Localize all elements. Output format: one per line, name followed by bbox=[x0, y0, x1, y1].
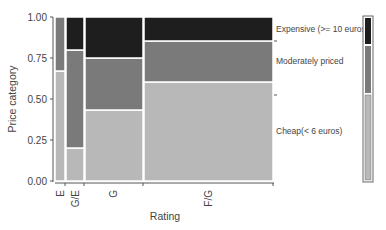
tile-fg-expensive bbox=[144, 17, 273, 41]
tile-ge-expensive bbox=[66, 17, 84, 50]
y-axis-label: Price category bbox=[6, 65, 18, 133]
tile-ge-moderate bbox=[66, 50, 84, 148]
right-ticks bbox=[274, 41, 277, 95]
legend-swatch-moderate bbox=[365, 46, 371, 93]
x-tick-label: E bbox=[55, 190, 66, 197]
label-moderate: Moderately priced bbox=[276, 56, 344, 66]
mosaic-chart: 1.00 0.75 0.50 0.25 0.00 Price category … bbox=[0, 0, 386, 230]
y-tick-label: 1.00 bbox=[28, 12, 48, 23]
tile-g-moderate bbox=[85, 58, 143, 110]
tile-fg-cheap bbox=[144, 82, 273, 181]
y-tick-label: 0.25 bbox=[28, 135, 48, 146]
legend-color-bar bbox=[363, 16, 373, 182]
y-tick-label: 0.75 bbox=[28, 53, 48, 64]
y-ticks: 1.00 0.75 0.50 0.25 0.00 bbox=[28, 12, 53, 187]
x-tick-label: G/E bbox=[70, 190, 81, 208]
label-cheap: Cheap(< 6 euros) bbox=[276, 126, 343, 136]
y-tick-label: 0.00 bbox=[28, 176, 48, 187]
tile-e-moderate bbox=[55, 17, 65, 71]
tile-fg-moderate bbox=[144, 41, 273, 82]
tile-ge-cheap bbox=[66, 148, 84, 181]
legend-swatch-expensive bbox=[365, 18, 371, 44]
tile-g-cheap bbox=[85, 110, 143, 181]
mosaic-tiles bbox=[55, 17, 273, 181]
x-tick-label: G bbox=[108, 190, 119, 198]
label-expensive: Expensive (>= 10 euros) bbox=[276, 24, 369, 34]
legend-swatch-cheap bbox=[365, 95, 371, 180]
y-tick-label: 0.50 bbox=[28, 94, 48, 105]
tile-e-cheap bbox=[55, 71, 65, 181]
x-tick-label: F/G bbox=[203, 190, 214, 207]
tile-g-expensive bbox=[85, 17, 143, 58]
x-axis-label: Rating bbox=[150, 210, 181, 222]
